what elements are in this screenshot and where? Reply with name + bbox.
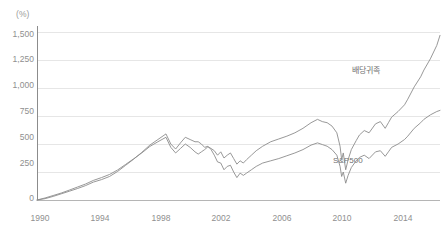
- axis-lines: [37, 26, 440, 200]
- chart-plot-area: [0, 0, 445, 237]
- chart-container: (%) 1,500 1,250 1,000 750 500 250 0 1990…: [0, 0, 445, 237]
- series-line-sp500: [37, 110, 440, 200]
